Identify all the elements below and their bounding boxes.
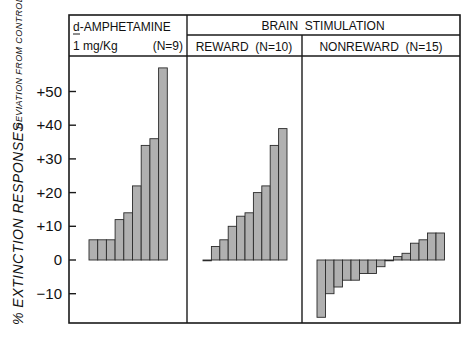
y-tick-label: −10 [37,285,62,302]
bar [262,186,270,260]
bar [317,260,326,317]
bar [211,247,219,261]
y-tick-label: 0 [54,251,62,268]
y-tick-label: +20 [37,184,62,201]
bar-chart: % EXTINCTION RESPONSES DEVIATION FROM CO… [0,0,473,338]
bar [436,233,445,260]
bar [124,213,133,260]
bar [360,260,369,274]
bar [270,145,278,260]
bar [351,260,360,280]
y-tick-label: +10 [37,217,62,234]
amphetamine-header-line1: d-AMPHETAMINE [73,20,171,34]
y-axis-subtitle: DEVIATION FROM CONTROL [14,0,24,129]
bar [115,220,124,260]
bar [411,243,420,260]
y-axis-ticks: +50+40+30+20+100−10 [37,83,76,302]
bar [385,260,394,261]
bar [220,240,228,260]
bar [253,193,261,260]
y-tick-label: +30 [37,150,62,167]
bars [89,68,445,317]
bar [237,216,245,260]
plot-frame [69,15,460,323]
bar [279,129,287,260]
bar [377,260,386,267]
bar [326,260,335,294]
bar [141,145,150,260]
bar [203,260,211,261]
y-tick-label: +40 [37,116,62,133]
bar [89,240,98,260]
bar [98,240,107,260]
bar [368,260,377,274]
bar [228,226,236,260]
y-tick-label: +50 [37,83,62,100]
nonreward-header: NONREWARD (N=15) [319,40,442,54]
bar [150,139,159,260]
bar [133,186,142,260]
brain-stimulation-header: BRAIN STIMULATION [261,19,384,33]
y-axis-label: % EXTINCTION RESPONSES DEVIATION FROM CO… [10,0,26,325]
bar [402,253,411,260]
reward-header: REWARD (N=10) [196,40,293,54]
bar [334,260,343,287]
bar [428,233,437,260]
bar [343,260,352,280]
amphetamine-header-dose: 1 mg/Kg [73,39,118,53]
bar [159,68,168,260]
bar [394,257,403,260]
amphetamine-header-n: (N=9) [153,39,183,53]
bar [245,213,253,260]
y-axis-title: % EXTINCTION RESPONSES [10,122,26,325]
bar [106,240,115,260]
bar [419,240,428,260]
